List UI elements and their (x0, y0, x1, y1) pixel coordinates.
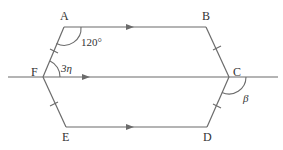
vertex-label-A: A (60, 9, 69, 23)
side-EF (43, 77, 66, 127)
vertex-label-B: B (202, 9, 210, 23)
angle-label-F: 3η (60, 62, 72, 74)
parallel-arrow-ED (126, 124, 134, 130)
hexagon-diagram: A B C D E F 120° 3η β (0, 0, 283, 150)
side-BC (206, 27, 229, 77)
parallel-arrow-AB (126, 24, 134, 30)
vertex-label-F: F (31, 65, 38, 79)
angle-label-C: β (242, 92, 249, 104)
vertex-label-E: E (62, 130, 69, 144)
tick-mark-BC (213, 46, 221, 50)
angle-arc-F (50, 61, 60, 77)
vertex-label-D: D (203, 130, 212, 144)
angle-label-A: 120° (81, 36, 102, 48)
vertex-label-C: C (233, 65, 241, 79)
tick-mark-EF (50, 102, 58, 106)
side-CD (207, 77, 229, 127)
parallel-arrow-FC (82, 74, 90, 80)
diagram-svg: A B C D E F 120° 3η β (0, 0, 283, 150)
